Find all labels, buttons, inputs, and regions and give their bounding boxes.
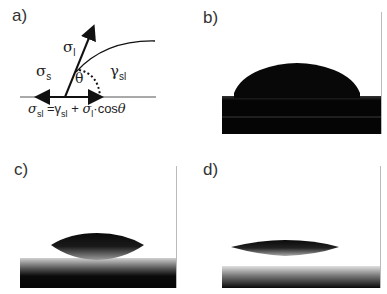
panel-label-b: b) <box>203 8 218 28</box>
frame-edge <box>381 12 382 134</box>
theta-symbol: θ <box>75 70 83 86</box>
panel-label-c: c) <box>14 160 28 180</box>
young-equation: σsl =γsl + σl·cosθ <box>28 101 126 119</box>
contact-angle-schematic <box>0 0 190 140</box>
gamma-sl-symbol: γsl <box>110 62 126 82</box>
panel-label-d: d) <box>203 160 218 180</box>
frame-edge <box>380 166 381 288</box>
frame-edge <box>176 166 177 288</box>
sigma-s-symbol: σs <box>36 62 51 82</box>
sigma-l-symbol: σl <box>63 38 75 58</box>
